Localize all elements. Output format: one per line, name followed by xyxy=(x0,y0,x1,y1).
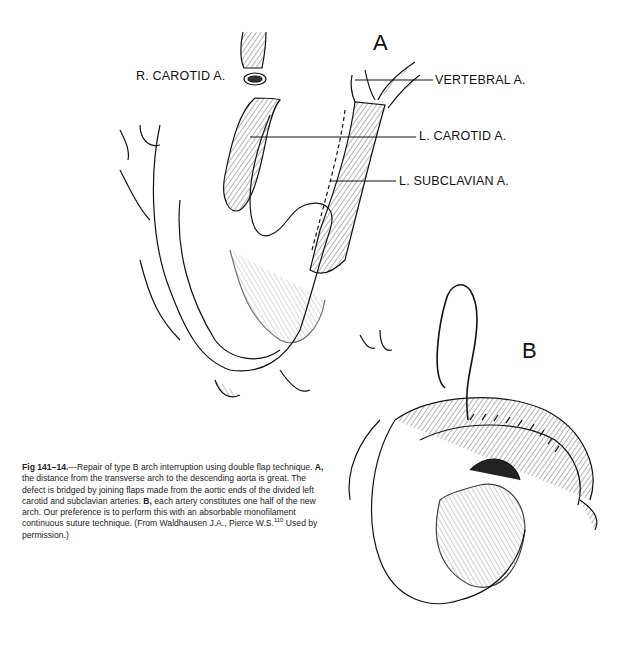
caption-figure-number: Fig 141–14. xyxy=(22,462,68,472)
figure-caption: Fig 141–14.—Repair of type B arch interr… xyxy=(22,462,327,541)
surgical-figure: A B R. CAROTID A. VERTEBRAL A. L. CAROTI… xyxy=(0,0,620,645)
panel-b-drawing xyxy=(349,285,597,604)
label-l-carotid: L. CAROTID A. xyxy=(419,129,506,143)
panel-a-drawing xyxy=(120,32,420,397)
label-vertebral: VERTEBRAL A. xyxy=(435,73,526,87)
panel-b-letter: B xyxy=(522,338,537,364)
label-l-subclavian: L. SUBCLAVIAN A. xyxy=(399,174,509,188)
label-r-carotid: R. CAROTID A. xyxy=(136,69,225,83)
caption-intro: —Repair of type B arch interruption usin… xyxy=(68,462,312,472)
caption-part-b-label: B, xyxy=(143,496,152,506)
caption-part-a-label: A, xyxy=(315,462,324,472)
panel-a-letter: A xyxy=(373,30,388,56)
illustration-svg xyxy=(0,0,620,645)
